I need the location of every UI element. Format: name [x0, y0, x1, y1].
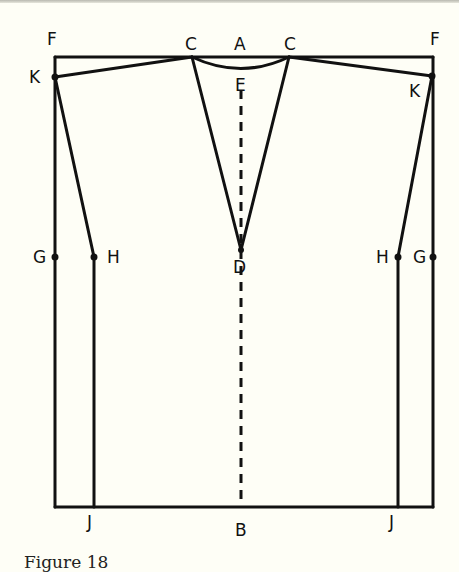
label-F-right: F: [430, 29, 440, 49]
neckline-curve-C-E-C: [192, 57, 289, 69]
shoulder-line-right-C-K: [289, 57, 432, 76]
v-neck-right-C-D: [241, 57, 289, 250]
point-D: [238, 247, 244, 253]
point-G-right: [430, 254, 437, 261]
shoulder-line-left-K-C: [55, 57, 192, 77]
label-C-right: C: [284, 34, 296, 54]
label-A: A: [234, 34, 246, 54]
point-K-right: [429, 73, 436, 80]
side-seam-right-K-H: [398, 76, 432, 257]
label-G-left: G: [33, 247, 46, 267]
point-K-left: [52, 74, 59, 81]
label-B: B: [235, 520, 247, 540]
label-E: E: [235, 75, 246, 95]
label-K-left: K: [29, 67, 41, 87]
label-C-left: C: [185, 34, 197, 54]
v-neck-left-C-D: [192, 57, 241, 250]
label-F-left: F: [47, 29, 57, 49]
point-H-left: [91, 254, 98, 261]
label-K-right: K: [409, 81, 421, 101]
point-H-right: [395, 254, 402, 261]
side-seam-left-K-H: [55, 77, 94, 257]
label-J-right: J: [388, 512, 394, 532]
label-H-right: H: [376, 247, 389, 267]
label-H-left: H: [107, 247, 120, 267]
figure-caption: Figure 18: [24, 552, 108, 572]
label-J-left: J: [86, 512, 92, 532]
label-D: D: [233, 257, 246, 277]
point-G-left: [52, 254, 59, 261]
label-G-right: G: [413, 247, 426, 267]
